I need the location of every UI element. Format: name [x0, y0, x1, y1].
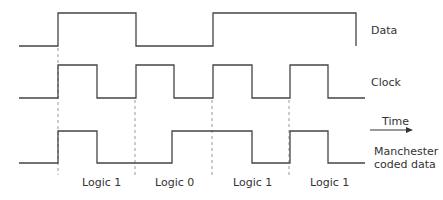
timing-diagram: Data Clock Time Manchester coded data Lo…: [0, 0, 443, 200]
bit-label-3: Logic 1: [233, 176, 272, 189]
manchester-label-line2: coded data: [374, 158, 436, 171]
data-waveform: [19, 13, 356, 46]
time-label: Time: [382, 115, 409, 128]
data-label: Data: [371, 24, 397, 37]
bit-label-4: Logic 1: [310, 176, 349, 189]
manchester-label-line1: Manchester: [374, 145, 438, 158]
clock-label: Clock: [371, 76, 401, 89]
manchester-waveform: [19, 131, 365, 163]
clock-waveform: [19, 65, 365, 98]
bit-label-1: Logic 1: [82, 176, 121, 189]
bit-label-2: Logic 0: [155, 176, 194, 189]
